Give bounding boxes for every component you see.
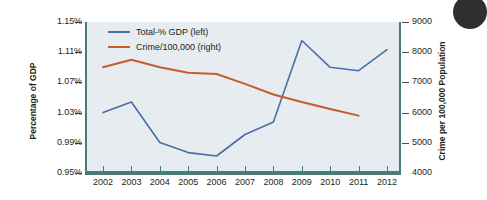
right-axis-tick xyxy=(402,113,409,114)
right-axis-spine xyxy=(399,22,401,175)
right-axis-tick-label: 8000 xyxy=(412,46,432,56)
page-corner-artifact xyxy=(453,0,487,29)
x-axis-tick xyxy=(131,166,132,172)
x-axis-tick-label: 2012 xyxy=(370,177,404,187)
legend-swatch-blue xyxy=(108,31,130,33)
right-axis-tick-label: 9000 xyxy=(412,16,432,26)
right-axis-tick-label: 6000 xyxy=(412,107,432,117)
right-axis-tick xyxy=(402,22,409,23)
left-axis-spine xyxy=(85,22,87,175)
left-axis-tick-label: 0.95% xyxy=(57,167,82,177)
x-axis-tick xyxy=(302,166,303,172)
legend-item-total-gdp: Total-% GDP (left) xyxy=(108,24,221,39)
x-axis-tick xyxy=(330,166,331,172)
x-axis-tick xyxy=(273,166,274,172)
right-axis-tick xyxy=(402,143,409,144)
right-axis-tick-label: 5000 xyxy=(412,137,432,147)
legend-swatch-orange xyxy=(108,46,130,48)
x-axis-tick xyxy=(217,166,218,172)
x-axis-tick xyxy=(103,166,104,172)
right-axis-tick-label: 4000 xyxy=(412,167,432,177)
legend-label-crime: Crime/100,000 (right) xyxy=(136,42,221,52)
legend-item-crime: Crime/100,000 (right) xyxy=(108,39,221,54)
x-axis-tick xyxy=(188,166,189,172)
right-axis-title: Crime per 100,000 Population xyxy=(437,27,447,175)
left-axis-tick-label: 1.07% xyxy=(57,76,82,86)
x-axis-tick xyxy=(387,166,388,172)
bottom-axis-spine xyxy=(85,171,401,175)
legend: Total-% GDP (left) Crime/100,000 (right) xyxy=(108,24,221,54)
right-axis-tick xyxy=(402,82,409,83)
left-axis-tick-label: 0.99% xyxy=(57,137,82,147)
x-axis-tick xyxy=(160,166,161,172)
left-axis-tick-label: 1.03% xyxy=(57,107,82,117)
right-axis-tick xyxy=(402,52,409,53)
x-axis-tick xyxy=(359,166,360,172)
left-axis-title: Percentage of GDP xyxy=(28,49,38,153)
left-axis-tick-label: 1.15% xyxy=(57,16,82,26)
legend-label-total-gdp: Total-% GDP (left) xyxy=(136,27,208,37)
right-axis-tick-label: 7000 xyxy=(412,76,432,86)
left-axis-tick-label: 1.11% xyxy=(58,46,82,56)
x-axis-tick xyxy=(245,166,246,172)
